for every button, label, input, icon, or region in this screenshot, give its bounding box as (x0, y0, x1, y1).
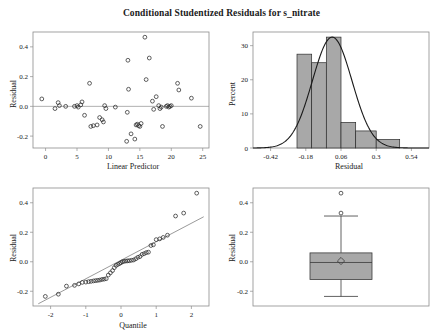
svg-text:30: 30 (241, 42, 249, 50)
svg-text:-2: -2 (48, 311, 54, 319)
svg-text:-0.2: -0.2 (237, 288, 249, 296)
svg-text:0.54: 0.54 (405, 153, 418, 161)
scatter-y-label: Residual (9, 79, 18, 108)
scatter-x-label: Linear Predictor (107, 162, 160, 171)
histogram-bar (376, 139, 399, 148)
svg-text:0.2: 0.2 (239, 229, 248, 237)
qq-svg: -2-1012-0.20.00.20.4 Quantile Residual (0, 178, 222, 336)
figure-title: Conditional Studentized Residuals for s_… (0, 8, 443, 18)
svg-text:2: 2 (190, 311, 194, 319)
svg-text:25: 25 (199, 153, 207, 161)
svg-text:20: 20 (168, 153, 176, 161)
panel-boxplot: -0.20.00.20.4 Residual (221, 178, 443, 336)
svg-text:0.0: 0.0 (19, 103, 28, 111)
svg-text:0: 0 (245, 145, 249, 153)
boxplot-svg: -0.20.00.20.4 Residual (221, 178, 443, 336)
svg-text:0.4: 0.4 (239, 199, 248, 207)
histogram-svg: -0.42-0.180.060.30.540102030 Residual Pe… (221, 24, 443, 174)
svg-text:1: 1 (154, 311, 158, 319)
svg-text:0.2: 0.2 (19, 229, 28, 237)
scatter-svg: 0510152025-0.20.00.20.4 Linear Predictor… (0, 24, 222, 174)
svg-text:0: 0 (44, 153, 48, 161)
svg-text:-0.2: -0.2 (17, 288, 29, 296)
svg-text:0.0: 0.0 (239, 258, 248, 266)
histogram-y-label: Percent (228, 81, 237, 106)
panel-residual-vs-linear-predictor: 0510152025-0.20.00.20.4 Linear Predictor… (0, 24, 222, 174)
svg-text:-0.2: -0.2 (17, 133, 29, 141)
boxplot-y-label: Residual (228, 233, 237, 262)
svg-text:0.2: 0.2 (19, 73, 28, 81)
svg-text:0.4: 0.4 (19, 199, 28, 207)
svg-text:0.06: 0.06 (335, 153, 348, 161)
svg-text:0.4: 0.4 (19, 43, 28, 51)
svg-text:10: 10 (241, 110, 249, 118)
figure-root: Conditional Studentized Residuals for s_… (0, 0, 443, 336)
histogram-bar (297, 54, 312, 148)
svg-text:-0.42: -0.42 (263, 153, 278, 161)
qq-x-label: Quantile (119, 321, 147, 330)
svg-text:15: 15 (136, 153, 144, 161)
histogram-x-label: Residual (335, 162, 364, 171)
qq-y-label: Residual (9, 233, 18, 262)
panel-qq-plot: -2-1012-0.20.00.20.4 Quantile Residual (0, 178, 222, 336)
svg-text:0.3: 0.3 (372, 153, 381, 161)
svg-text:20: 20 (241, 76, 249, 84)
svg-text:-0.18: -0.18 (299, 153, 314, 161)
histogram-bar (326, 37, 341, 148)
svg-text:0.0: 0.0 (19, 258, 28, 266)
histogram-bar (356, 131, 377, 148)
panel-residual-histogram: -0.42-0.180.060.30.540102030 Residual Pe… (221, 24, 443, 174)
svg-text:10: 10 (105, 153, 113, 161)
svg-text:5: 5 (75, 153, 79, 161)
histogram-bar (341, 122, 356, 148)
svg-text:-1: -1 (83, 311, 89, 319)
svg-text:0: 0 (119, 311, 123, 319)
